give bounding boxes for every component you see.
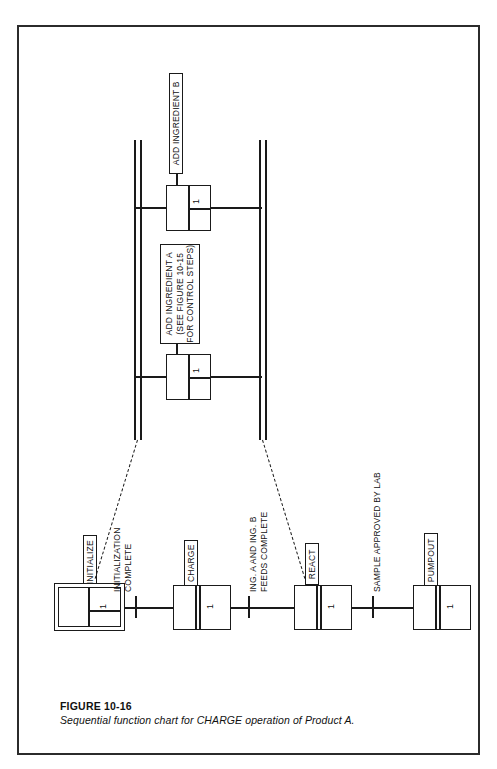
figure-caption: FIGURE 10-16 Sequential function chart f…: [60, 700, 460, 726]
branch-step-a-hdiv: [188, 377, 210, 379]
step-label-react-text: REACT: [307, 549, 318, 579]
step-label-pumpout-text: PUMPOUT: [426, 538, 437, 582]
figure-frame: [17, 25, 480, 755]
branch-step-a: 1: [166, 354, 211, 400]
transition-condition-3: SAMPLE APPROVED BY LAB: [372, 472, 383, 592]
figure-caption-text: Sequential function chart for CHARGE ope…: [60, 714, 460, 726]
step-react-number: 1: [327, 595, 341, 609]
figure-page: INITIALIZE 1 INITIALIZATION COMPLETE CHA…: [0, 0, 497, 769]
step-initialize-hdiv: [88, 610, 121, 612]
step-label-charge: CHARGE: [184, 540, 198, 586]
step-react-divider-a: [316, 586, 318, 629]
step-label-initialize: INITIALIZE: [83, 535, 97, 589]
action-box-add-ingredient-a: ADD INGREDIENT A (SEE FIGURE 10-15 FOR C…: [160, 244, 200, 344]
step-react: 1: [294, 585, 352, 630]
step-charge: 1: [173, 585, 231, 630]
parallel-convergence-bar-1: [259, 140, 261, 440]
action-box-add-ingredient-a-text: ADD INGREDIENT A (SEE FIGURE 10-15 FOR C…: [164, 245, 196, 343]
step-charge-divider-b: [199, 586, 201, 629]
step-pumpout-divider-a: [435, 586, 437, 629]
step-label-pumpout: PUMPOUT: [424, 533, 438, 587]
branch-b-action-stem: [176, 173, 178, 186]
parallel-divergence-bar-2: [140, 140, 142, 440]
branch-step-a-number: 1: [192, 359, 206, 373]
transition-condition-2: ING. A AND ING. B FEEDS COMPLETE: [248, 512, 270, 592]
step-react-divider-b: [320, 586, 322, 629]
step-label-react: REACT: [305, 543, 319, 585]
step-charge-divider-a: [195, 586, 197, 629]
transition-tick-3: [372, 596, 374, 618]
step-initialize-number: 1: [99, 595, 113, 609]
transition-tick-2: [248, 596, 250, 618]
step-label-charge-text: CHARGE: [186, 544, 197, 582]
parallel-divergence-bar-1: [134, 140, 136, 440]
step-pumpout-divider-b: [439, 586, 441, 629]
parallel-convergence-bar-2: [265, 140, 267, 440]
transition-tick-1: [135, 596, 137, 618]
step-charge-number: 1: [206, 595, 220, 609]
step-pumpout: 1: [413, 585, 471, 630]
branch-step-b: 1: [166, 185, 211, 231]
step-pumpout-number: 1: [446, 595, 460, 609]
figure-caption-title: FIGURE 10-16: [60, 700, 460, 712]
action-box-add-ingredient-b-text: ADD INGREDIENT B: [171, 82, 182, 166]
action-box-add-ingredient-b: ADD INGREDIENT B: [169, 73, 183, 174]
transition-condition-1: INITIALIZATION COMPLETE: [112, 527, 134, 592]
branch-step-b-number: 1: [192, 190, 206, 204]
branch-step-b-hdiv: [188, 208, 210, 210]
step-initialize-divider: [88, 587, 90, 627]
